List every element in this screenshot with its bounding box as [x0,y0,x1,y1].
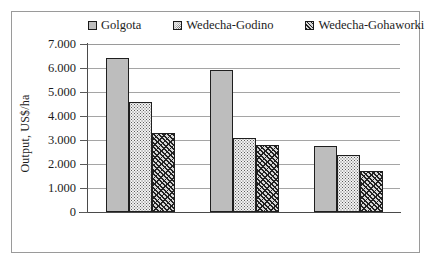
bar-wedecha-godino-group-1 [129,102,152,212]
y-axis-tick-label: 4.000 [28,110,76,123]
legend-label-wedecha-gohaworki: Wedecha-Gohaworki [318,19,424,32]
y-axis-tick-mark [80,140,88,141]
bar-wedecha-gohaworki-group-2 [256,145,279,212]
y-axis-tick-label: 7.000 [28,38,76,51]
y-axis-tick-mark [80,188,88,189]
bar-wedecha-godino-group-3 [337,155,360,212]
y-axis-tick-label: 6.000 [28,62,76,75]
legend-label-wedecha-godino: Wedecha-Godino [186,19,273,32]
bars-layer [88,44,400,212]
y-axis-tick-mark [80,44,88,45]
plot-area [88,44,400,212]
y-axis-tick-mark [80,92,88,93]
bar-wedecha-gohaworki-group-3 [360,171,383,212]
y-axis-tick-label: 5.000 [28,86,76,99]
bar-golgota-group-3 [314,146,337,212]
y-axis-tick-label: 0 [28,206,76,219]
y-axis-tick-label: 2.000 [28,158,76,171]
legend-item-wedecha-godino: Wedecha-Godino [173,19,273,32]
legend-label-golgota: Golgota [101,19,141,32]
legend-item-wedecha-gohaworki: Wedecha-Gohaworki [305,19,424,32]
chart-legend: Golgota Wedecha-Godino Wedecha-Gohaworki [70,16,400,34]
y-axis-tick-mark [80,212,88,213]
bar-golgota-group-2 [210,70,233,212]
y-axis-tick-mark [80,116,88,117]
legend-swatch-icon-wedecha-godino [173,21,182,30]
y-axis-tick-labels: 7.0006.0005.0004.0003.0002.0001.0000 [26,0,76,264]
legend-swatch-icon-wedecha-gohaworki [305,21,314,30]
bar-wedecha-gohaworki-group-1 [152,133,175,212]
y-axis-tick-mark [80,164,88,165]
legend-item-golgota: Golgota [88,19,141,32]
bar-golgota-group-1 [106,58,129,212]
bar-wedecha-godino-group-2 [233,138,256,212]
y-axis-tick-mark [80,68,88,69]
chart-figure: Golgota Wedecha-Godino Wedecha-Gohaworki… [0,0,434,264]
y-axis-tick-label: 3.000 [28,134,76,147]
y-axis-tick-label: 1.000 [28,182,76,195]
x-axis-line [79,212,401,213]
legend-swatch-icon-golgota [88,21,97,30]
